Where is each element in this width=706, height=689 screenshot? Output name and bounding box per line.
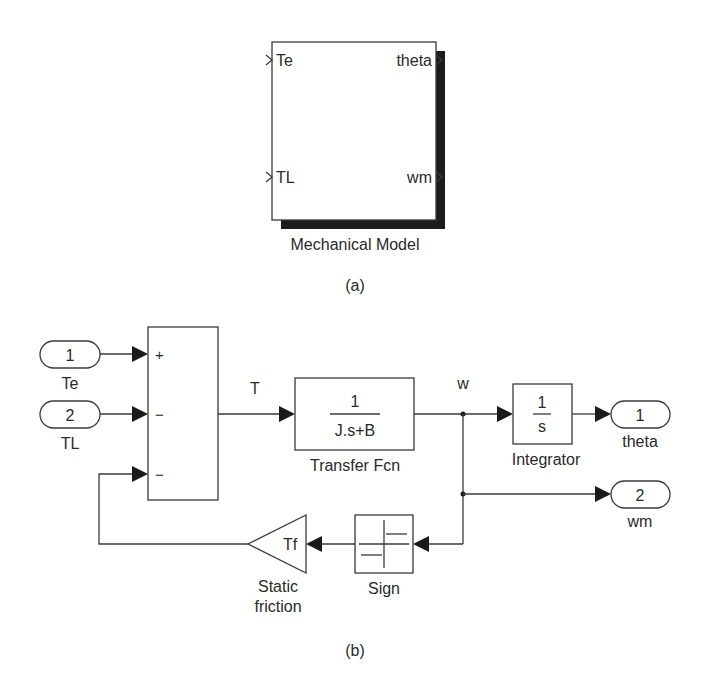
transfer-fcn-label: Transfer Fcn — [310, 457, 400, 474]
subsystem-output-wm: wm — [406, 169, 432, 186]
signal-label-t: T — [250, 380, 260, 397]
inport-2[interactable]: 2 — [40, 401, 100, 428]
outport-2[interactable]: 2 — [611, 481, 670, 508]
inport-2-label: TL — [61, 435, 80, 452]
arrow-head-icon — [132, 406, 148, 422]
arrow-head-icon — [132, 346, 148, 362]
arrow-head-icon — [306, 536, 322, 552]
sign-block[interactable] — [355, 515, 413, 573]
integrator-label: Integrator — [512, 451, 581, 468]
sign-label: Sign — [368, 580, 400, 597]
arrow-head-icon — [413, 536, 429, 552]
outport-1-label: theta — [622, 433, 658, 450]
sum-sign-1: + — [155, 346, 164, 363]
mechanical-model-subsystem[interactable]: Te TL theta wm — [266, 42, 445, 229]
caption-a: (a) — [345, 277, 365, 294]
sum-block[interactable]: + − − — [148, 327, 218, 500]
integrator-numerator: 1 — [538, 394, 547, 411]
gain-shape[interactable] — [248, 515, 306, 573]
gain-label-line2: friction — [254, 598, 301, 615]
subsystem-input-tl: TL — [276, 169, 295, 186]
arrow-head-icon — [595, 486, 611, 502]
diagram-canvas: Te TL theta wm Mechanical Model (a) 1 Te… — [0, 0, 706, 689]
inport-1-number: 1 — [66, 347, 75, 364]
gain-block[interactable]: Tf — [248, 515, 306, 573]
arrow-head-icon — [279, 406, 295, 422]
subsystem-output-theta: theta — [396, 52, 432, 69]
signal-label-w: w — [456, 375, 469, 392]
sum-sign-3: − — [155, 466, 164, 483]
subsystem-name: Mechanical Model — [291, 236, 420, 253]
transfer-fcn-denominator: J.s+B — [335, 422, 375, 439]
gain-value: Tf — [283, 536, 298, 553]
gain-label-line1: Static — [258, 578, 298, 595]
sum-sign-2: − — [155, 406, 164, 423]
arrow-head-icon — [497, 406, 513, 422]
subsystem-input-te: Te — [276, 52, 293, 69]
integrator-denominator: s — [538, 418, 546, 435]
outport-1-number: 1 — [636, 407, 645, 424]
transfer-fcn-numerator: 1 — [351, 393, 360, 410]
input-port-chevron-icon — [266, 172, 272, 182]
input-port-chevron-icon — [266, 55, 272, 65]
inport-1-label: Te — [62, 375, 79, 392]
inport-2-number: 2 — [66, 407, 75, 424]
arrow-head-icon — [132, 466, 148, 482]
inport-1[interactable]: 1 — [40, 341, 100, 368]
outport-1[interactable]: 1 — [611, 401, 670, 428]
transfer-fcn-block[interactable]: 1 J.s+B — [295, 378, 414, 450]
integrator-block[interactable]: 1 s — [513, 384, 572, 444]
outport-2-number: 2 — [636, 487, 645, 504]
arrow-head-icon — [595, 406, 611, 422]
outport-2-label: wm — [627, 513, 653, 530]
caption-b: (b) — [345, 642, 365, 659]
